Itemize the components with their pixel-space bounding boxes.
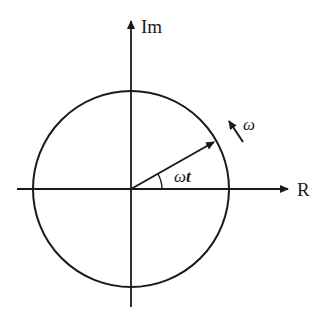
angle-arc [158,174,162,189]
phasor-diagram [0,0,323,317]
real-axis-label: R [297,180,310,199]
angle-label: ωt [174,168,191,185]
phasor-vector [131,142,214,189]
angular-velocity-label: ω [243,116,255,133]
rotation-arrow [229,121,243,142]
imaginary-axis-label: Im [141,17,162,36]
angle-label-t: t [186,167,191,186]
angle-label-omega: ω [174,167,186,186]
